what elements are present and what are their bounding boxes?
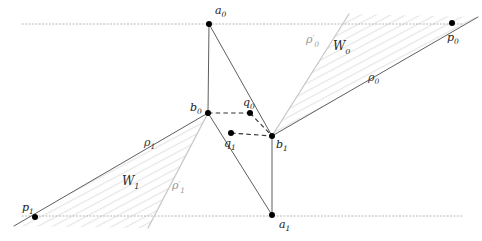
point-label-q0: q0 bbox=[243, 96, 255, 111]
ray-label-rho0-prime: ρ′0 bbox=[305, 33, 319, 49]
point-marker-q1 bbox=[228, 130, 234, 136]
point-marker-b0 bbox=[205, 110, 211, 116]
ray-label-rho1: ρ1 bbox=[143, 136, 155, 151]
point-marker-a0 bbox=[206, 21, 212, 27]
wedge-fill-group bbox=[14, 14, 478, 228]
point-label-a1: a1 bbox=[279, 218, 290, 233]
diagram-canvas: a0p0b0q0q1b1p1a1 W0W1 ρ0ρ′0ρ1ρ′1 bbox=[0, 0, 482, 241]
point-label-p1: p1 bbox=[22, 201, 34, 216]
geometry-figure: a0p0b0q0q1b1p1a1 W0W1 ρ0ρ′0ρ1ρ′1 bbox=[0, 0, 482, 241]
point-label-b0: b0 bbox=[190, 101, 202, 116]
point-label-p0: p0 bbox=[447, 31, 459, 46]
point-label-b1: b1 bbox=[276, 138, 288, 153]
a0-b1 bbox=[209, 24, 272, 136]
point-label-a0: a0 bbox=[215, 4, 227, 19]
a0-b0 bbox=[208, 24, 209, 113]
point-marker-p0 bbox=[449, 20, 455, 26]
point-marker-b1 bbox=[269, 133, 275, 139]
dashed-segment-group bbox=[208, 113, 272, 136]
b0-a1 bbox=[208, 113, 272, 215]
point-marker-a1 bbox=[269, 212, 275, 218]
point-label-q1: q1 bbox=[224, 137, 236, 152]
ray-label-rho1-prime: ρ′1 bbox=[171, 179, 185, 195]
q1-to-b1 bbox=[231, 133, 272, 136]
